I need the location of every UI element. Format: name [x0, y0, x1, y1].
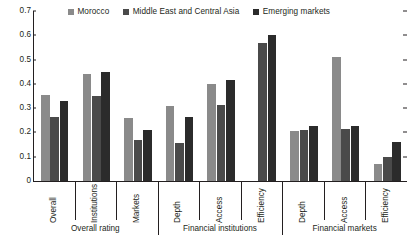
bar	[185, 117, 194, 181]
bar	[41, 95, 50, 181]
bar	[60, 101, 69, 181]
bar	[124, 118, 133, 181]
bar	[83, 74, 92, 181]
bar	[175, 143, 184, 181]
bar	[217, 105, 226, 182]
bar	[50, 117, 59, 181]
bar	[383, 157, 392, 181]
bar	[258, 43, 267, 181]
bar	[300, 130, 309, 181]
category-label: Depth	[174, 201, 182, 223]
group-label: Overall rating	[33, 224, 158, 234]
bar	[351, 126, 360, 181]
bars-layer	[34, 11, 407, 181]
bar	[101, 72, 110, 181]
bar	[268, 35, 277, 181]
y-axis-tick-label: 0.6	[20, 31, 33, 39]
bar	[207, 84, 216, 181]
category-label: Efficiency	[258, 188, 266, 223]
bar	[332, 57, 341, 181]
y-axis-tick-label: 0.5	[20, 56, 33, 64]
y-axis-tick-label: 0.4	[20, 80, 33, 88]
category-labels: OverallInstitutionsMarketsDepthAccessEff…	[33, 183, 407, 223]
bar	[392, 142, 401, 181]
bar	[341, 129, 350, 181]
bar	[290, 131, 299, 181]
bar	[166, 106, 175, 181]
bar	[134, 140, 143, 181]
bar	[92, 96, 101, 181]
y-axis-tick-label: 0.3	[20, 104, 33, 112]
bar	[143, 130, 152, 181]
category-label: Depth	[299, 201, 307, 223]
group-label: Financial institutions	[158, 224, 283, 234]
bar	[226, 80, 235, 181]
category-label: Overall	[50, 197, 58, 223]
y-axis-tick-label: 0.1	[20, 153, 33, 161]
bar	[309, 126, 318, 181]
category-label: Access	[216, 197, 224, 223]
group-label: Financial markets	[282, 224, 407, 234]
category-label: Access	[341, 197, 349, 223]
category-label: Efficiency	[382, 188, 390, 223]
group-labels: Overall ratingFinancial institutionsFina…	[33, 224, 407, 238]
y-axis-tick-label: 0.2	[20, 128, 33, 136]
bar-chart: Morocco Middle East and Central Asia Eme…	[0, 0, 414, 244]
y-axis-tick-label: 0.7	[20, 7, 33, 15]
plot-area: 00.10.20.30.40.50.60.7	[33, 11, 407, 182]
x-axis-line	[33, 181, 407, 182]
bar	[374, 164, 383, 181]
category-label: Markets	[133, 194, 141, 223]
category-label: Institutions	[91, 184, 99, 223]
